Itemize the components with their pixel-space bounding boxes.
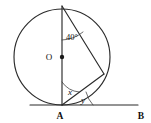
center-point-dot — [60, 55, 64, 59]
label-angle-y: y — [80, 95, 85, 105]
label-center-O: O — [46, 52, 53, 62]
label-angle-40-degrees: 40° — [66, 32, 78, 42]
label-angle-x: x — [67, 87, 72, 97]
label-point-B: B — [138, 111, 145, 121]
geometry-canvas: O A B 40° x y — [0, 0, 151, 123]
geometry-diagram: O A B 40° x y — [0, 0, 151, 123]
label-point-A: A — [57, 111, 64, 121]
